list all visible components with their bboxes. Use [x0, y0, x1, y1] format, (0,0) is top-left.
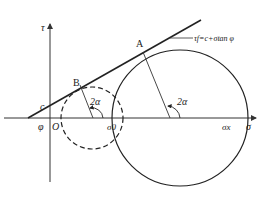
envelope-equation: τf=c+σtan φ [194, 34, 235, 43]
angle-2alpha-large-label: 2α [177, 96, 188, 107]
sigma0-label: σ0 [107, 122, 116, 132]
radius-A [143, 52, 170, 118]
origin-label: O [52, 121, 59, 132]
point-A-label: A [136, 38, 144, 49]
failure-envelope-line [28, 20, 201, 118]
angle-2alpha-small-label: 2α [90, 96, 101, 107]
mohr-diagram: τ σ O c φ A B σ0 σx 2α 2α τf=c+σtan φ [0, 0, 269, 204]
cohesion-label: c [40, 101, 45, 112]
sigmax-label: σx [222, 122, 230, 132]
point-B-label: B [73, 77, 80, 88]
friction-angle-label: φ [38, 121, 44, 132]
tau-axis-label: τ [41, 22, 45, 33]
angle-arc-large [168, 106, 180, 118]
sigma-axis-label: σ [246, 121, 252, 132]
